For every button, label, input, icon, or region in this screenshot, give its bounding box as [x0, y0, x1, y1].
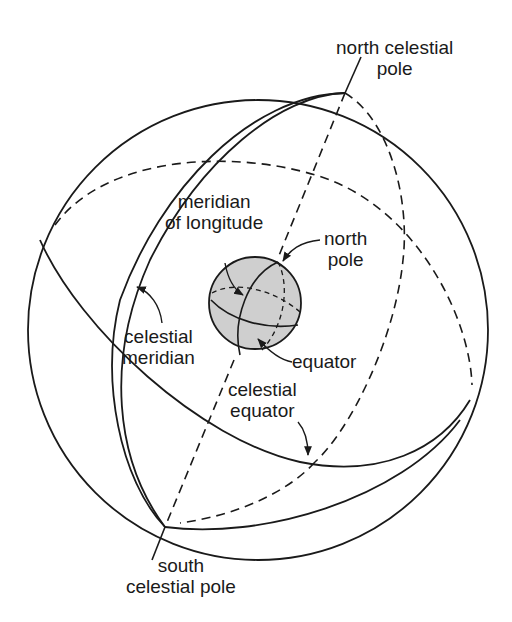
- celestial-sphere-diagram: north celestial pole meridian of longitu…: [0, 0, 512, 622]
- hidden-meridian-bottom: [180, 462, 315, 523]
- label-equator: equator: [292, 351, 356, 372]
- earth-globe: [209, 257, 301, 355]
- label-meridian-of-longitude: meridian of longitude: [165, 191, 263, 233]
- polar-axis-lower: [165, 360, 234, 527]
- celestial-meridian-arrow: [137, 287, 162, 323]
- diagram-drawing: [0, 0, 512, 622]
- north-pole-arrow: [283, 240, 320, 261]
- right-lower-arc: [165, 420, 460, 529]
- label-celestial-equator: celestial equator: [228, 379, 297, 421]
- label-north-pole: north pole: [324, 228, 367, 270]
- label-south-celestial-pole: south celestial pole: [126, 555, 236, 597]
- hidden-meridian-right: [315, 93, 404, 462]
- label-celestial-meridian: celestial meridian: [122, 326, 195, 368]
- label-north-celestial-pole: north celestial pole: [336, 37, 453, 79]
- celestial-equator-arrow: [298, 422, 308, 455]
